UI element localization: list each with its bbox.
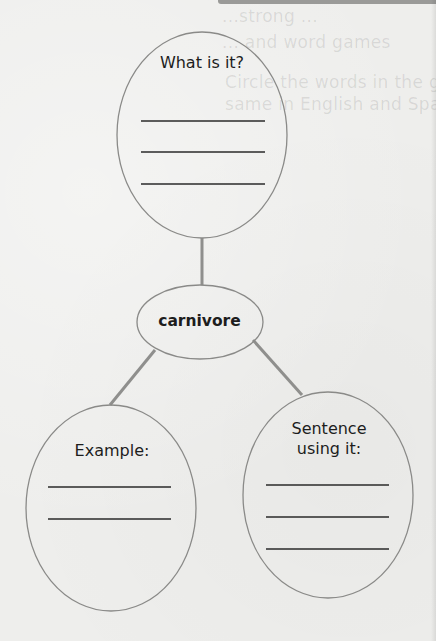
connector-right: [253, 340, 302, 395]
example-prompt: Example:: [27, 441, 197, 461]
connector-left: [110, 350, 155, 405]
definition-prompt: What is it?: [117, 53, 287, 73]
center-word: carnivore: [137, 311, 262, 331]
sentence-prompt-line-1: Sentence: [244, 419, 414, 439]
sentence-prompt-line-2: using it:: [244, 439, 414, 459]
example-bubble: [26, 405, 196, 611]
worksheet-page: ...strong ... ... and word games Circle …: [0, 0, 436, 641]
sentence-prompt: Sentence using it:: [244, 419, 414, 459]
